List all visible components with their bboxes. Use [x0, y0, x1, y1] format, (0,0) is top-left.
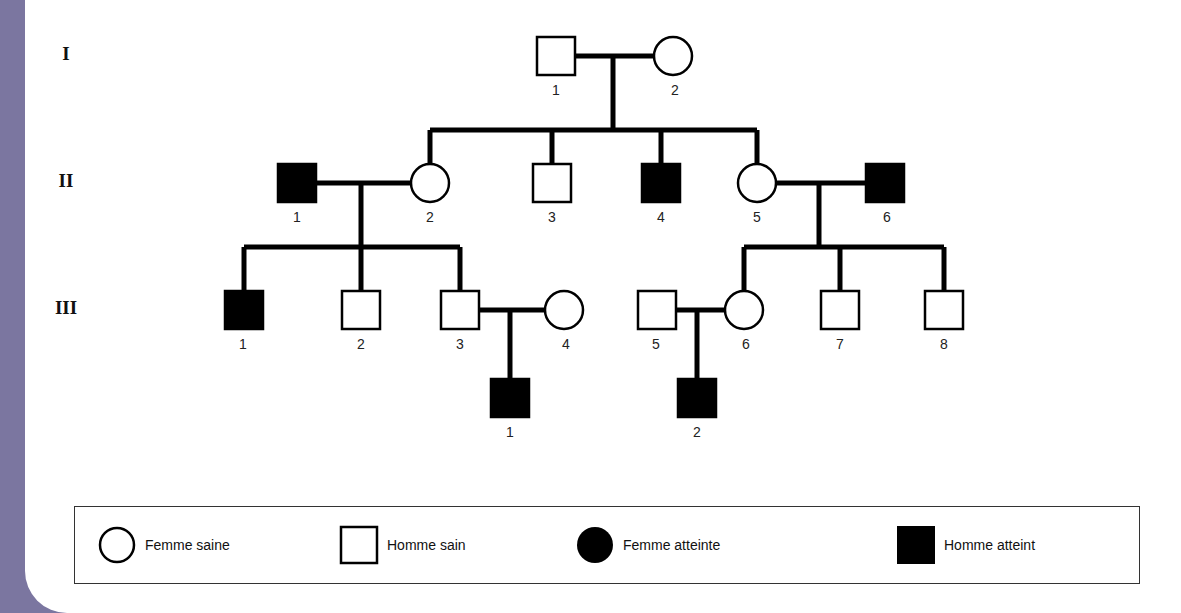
label-III-3: 3	[456, 336, 464, 352]
label-III-8: 8	[940, 336, 948, 352]
male-healthy-III-5	[638, 291, 676, 329]
legend-label: Femme saine	[145, 537, 230, 553]
square-open-icon	[339, 525, 379, 565]
label-IV-1: 1	[506, 424, 514, 440]
label-I-1: 1	[552, 82, 560, 98]
female-healthy-II-5	[738, 164, 776, 202]
legend-item-femme-atteinte: Femme atteinte	[575, 507, 720, 583]
male-healthy-III-3	[441, 291, 479, 329]
label-II-5: 5	[753, 209, 761, 225]
female-healthy-I-2	[654, 37, 692, 75]
individuals	[225, 37, 963, 417]
label-III-6: 6	[742, 336, 750, 352]
male-healthy-III-7	[821, 291, 859, 329]
male-affected-II-4	[642, 164, 680, 202]
legend-label: Femme atteinte	[623, 537, 720, 553]
connection-lines	[244, 56, 944, 379]
label-III-4: 4	[562, 336, 570, 352]
female-healthy-II-2	[411, 164, 449, 202]
male-healthy-I-1	[537, 37, 575, 75]
male-healthy-III-2	[342, 291, 380, 329]
male-affected-II-6	[866, 164, 904, 202]
female-healthy-III-6	[725, 291, 763, 329]
label-II-2: 2	[426, 209, 434, 225]
label-III-2: 2	[357, 336, 365, 352]
male-affected-IV-1	[491, 379, 529, 417]
male-affected-IV-2	[678, 379, 716, 417]
square-filled-icon	[896, 525, 936, 565]
circle-open-icon	[97, 525, 137, 565]
label-I-2: 2	[671, 82, 679, 98]
label-III-7: 7	[836, 336, 844, 352]
male-affected-II-1	[278, 164, 316, 202]
label-III-1: 1	[239, 336, 247, 352]
male-affected-III-1	[225, 291, 263, 329]
legend-box: Femme saine Homme sain Femme atteinte Ho…	[74, 506, 1140, 584]
female-healthy-III-4	[545, 291, 583, 329]
legend-item-homme-sain: Homme sain	[339, 507, 466, 583]
label-III-5: 5	[652, 336, 660, 352]
label-II-6: 6	[883, 209, 891, 225]
male-healthy-III-8	[925, 291, 963, 329]
legend-label: Homme sain	[387, 537, 466, 553]
label-II-4: 4	[657, 209, 665, 225]
legend-item-femme-saine: Femme saine	[97, 507, 230, 583]
legend-label: Homme atteint	[944, 537, 1035, 553]
male-healthy-II-3	[533, 164, 571, 202]
label-II-1: 1	[293, 209, 301, 225]
circle-filled-icon	[575, 525, 615, 565]
label-IV-2: 2	[693, 424, 701, 440]
label-II-3: 3	[548, 209, 556, 225]
legend-item-homme-atteint: Homme atteint	[896, 507, 1035, 583]
